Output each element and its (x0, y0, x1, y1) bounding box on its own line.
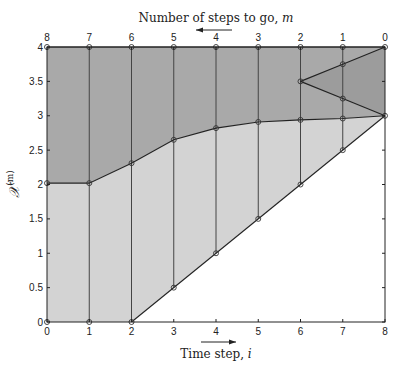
y-tick-label: 2.5 (29, 145, 43, 156)
x-tick-label: 7 (340, 326, 346, 337)
y-axis-title: 𝒳(m) (5, 170, 22, 198)
x-axis-title: Time step, i (180, 347, 252, 361)
y-tick-label: 1 (37, 248, 43, 259)
x-tick-label: 5 (255, 326, 261, 337)
top-tick-label: 8 (44, 32, 50, 43)
top-tick-label: 2 (298, 32, 304, 43)
x-tick-label: 1 (86, 326, 92, 337)
top-tick-label: 7 (86, 32, 92, 43)
top-tick-label: 5 (171, 32, 177, 43)
x-tick-label: 2 (129, 326, 135, 337)
top-tick-label: 1 (340, 32, 346, 43)
y-tick-label: 0 (37, 317, 43, 328)
right-arrow-icon (201, 340, 236, 345)
top-tick-label: 0 (382, 32, 388, 43)
y-tick-label: 3 (37, 110, 43, 121)
x-tick-label: 6 (298, 326, 304, 337)
x-tick-label: 0 (44, 326, 50, 337)
chart: 012345678 876543210 00.511.522.533.54 Nu… (0, 0, 399, 371)
y-tick-label: 2 (37, 179, 43, 190)
top-tick-label: 6 (129, 32, 135, 43)
top-tick-label: 4 (213, 32, 219, 43)
x-tick-label: 4 (213, 326, 219, 337)
x-tick-label: 3 (171, 326, 177, 337)
y-tick-label: 4 (37, 42, 43, 53)
x-tick-label: 8 (382, 326, 388, 337)
top-axis-title: Number of steps to go, m (139, 11, 294, 25)
y-tick-label: 0.5 (29, 282, 43, 293)
y-tick-label: 1.5 (29, 213, 43, 224)
top-tick-label: 3 (255, 32, 261, 43)
y-tick-label: 3.5 (29, 76, 43, 87)
